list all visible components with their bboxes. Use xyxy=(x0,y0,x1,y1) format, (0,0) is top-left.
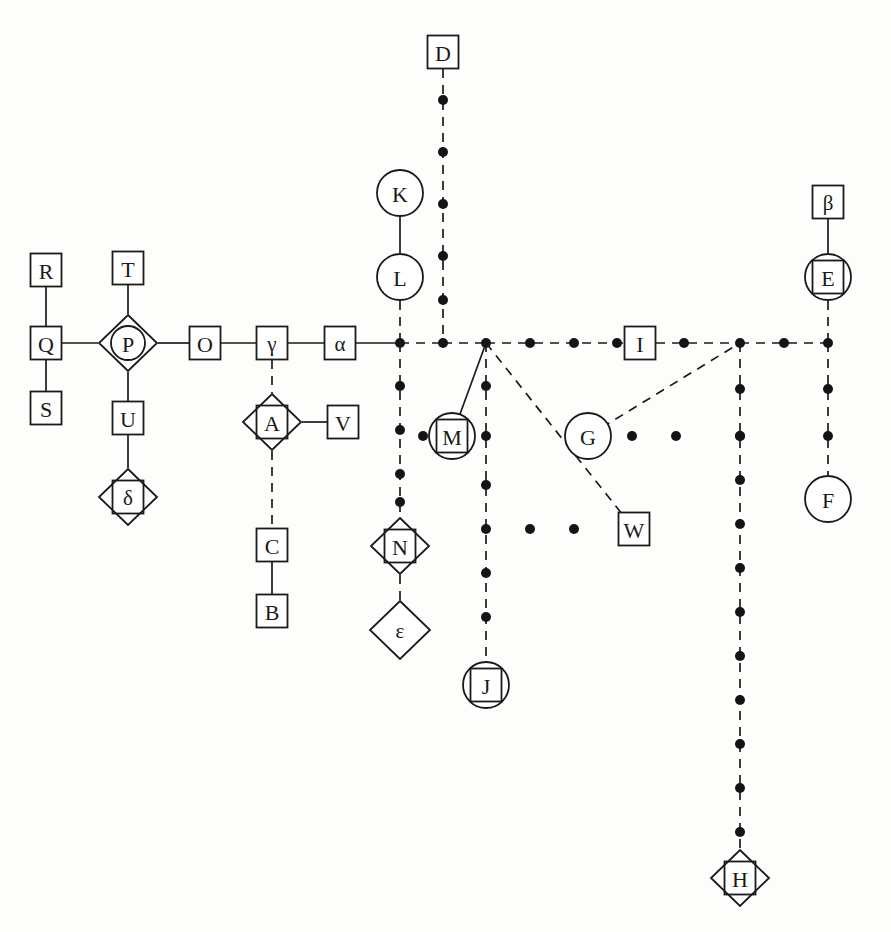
node-label-A: A xyxy=(264,411,280,436)
node-G[interactable]: G xyxy=(565,413,611,459)
node-label-L: L xyxy=(393,266,406,291)
junction-dot xyxy=(481,568,491,578)
junction-dot xyxy=(735,783,745,793)
node-P[interactable]: P xyxy=(99,315,157,371)
node-C[interactable]: C xyxy=(257,529,288,562)
node-F[interactable]: F xyxy=(805,476,851,522)
node-H[interactable]: H xyxy=(711,850,769,906)
node-label-C: C xyxy=(265,534,280,559)
junction-dot xyxy=(823,338,833,348)
junction-dot xyxy=(735,695,745,705)
junction-dot xyxy=(679,338,689,348)
node-label-N: N xyxy=(392,535,408,560)
junction-dot xyxy=(735,431,745,441)
node-label-V: V xyxy=(335,411,351,436)
node-D[interactable]: D xyxy=(428,36,459,69)
junction-dot xyxy=(395,381,405,391)
junction-dots-layer xyxy=(395,95,833,837)
junction-dot xyxy=(779,338,789,348)
junction-dot xyxy=(735,519,745,529)
junction-dot xyxy=(438,147,448,157)
junction-dot xyxy=(735,607,745,617)
node-label-I: I xyxy=(636,332,643,357)
junction-dot xyxy=(481,612,491,622)
node-label-Q: Q xyxy=(38,332,54,357)
node-U[interactable]: U xyxy=(113,402,144,435)
node-label-M: M xyxy=(442,425,462,450)
junction-dot xyxy=(438,338,448,348)
node-label-gamma: γ xyxy=(266,332,276,356)
node-label-beta: β xyxy=(823,191,834,215)
node-label-G: G xyxy=(580,425,596,450)
junction-dot xyxy=(569,524,579,534)
junction-dot xyxy=(735,651,745,661)
node-label-epsilon: ε xyxy=(396,619,405,643)
node-gamma[interactable]: γ xyxy=(257,327,288,360)
junction-dot xyxy=(395,338,405,348)
diagram-canvas: DKβRTLEQPOγαISUAVMGδFCNWBεJH xyxy=(0,0,891,932)
junction-dot xyxy=(438,251,448,261)
node-L[interactable]: L xyxy=(377,254,423,300)
node-I[interactable]: I xyxy=(625,327,656,360)
node-A[interactable]: A xyxy=(243,394,301,450)
junction-dot xyxy=(735,338,745,348)
junction-dot xyxy=(395,425,405,435)
node-W[interactable]: W xyxy=(619,513,650,546)
junction-dot xyxy=(481,480,491,490)
node-label-alpha: α xyxy=(334,332,345,356)
node-N[interactable]: N xyxy=(371,518,429,574)
node-label-R: R xyxy=(39,259,54,284)
junction-dot xyxy=(525,524,535,534)
junction-dot xyxy=(438,95,448,105)
junction-dot xyxy=(823,384,833,394)
junction-dot xyxy=(612,338,622,348)
node-label-delta: δ xyxy=(123,486,133,510)
junction-dot xyxy=(395,469,405,479)
junction-dot xyxy=(735,475,745,485)
junction-dot xyxy=(438,199,448,209)
node-epsilon[interactable]: ε xyxy=(370,601,430,659)
node-beta[interactable]: β xyxy=(813,186,844,219)
node-K[interactable]: K xyxy=(377,170,423,216)
node-J[interactable]: J xyxy=(463,662,509,708)
node-label-B: B xyxy=(265,600,280,625)
node-label-T: T xyxy=(121,257,135,282)
nodes-layer: DKβRTLEQPOγαISUAVMGδFCNWBεJH xyxy=(31,36,852,907)
junction-dot xyxy=(395,497,405,507)
junction-dot xyxy=(438,295,448,305)
junction-dot xyxy=(627,431,637,441)
junction-dot xyxy=(569,338,579,348)
junction-dot xyxy=(735,563,745,573)
node-label-U: U xyxy=(120,407,136,432)
node-label-D: D xyxy=(435,41,451,66)
node-Q[interactable]: Q xyxy=(31,327,62,360)
node-label-F: F xyxy=(822,488,834,513)
junction-dot xyxy=(418,431,428,441)
node-B[interactable]: B xyxy=(257,595,288,628)
node-alpha[interactable]: α xyxy=(325,327,356,360)
node-S[interactable]: S xyxy=(31,392,62,425)
node-V[interactable]: V xyxy=(328,406,359,439)
node-label-S: S xyxy=(40,397,52,422)
node-label-E: E xyxy=(821,266,834,291)
junction-dot xyxy=(525,338,535,348)
junction-dot xyxy=(481,338,491,348)
node-T[interactable]: T xyxy=(113,252,144,285)
junction-dot xyxy=(735,384,745,394)
node-label-J: J xyxy=(482,674,491,699)
node-R[interactable]: R xyxy=(31,254,62,287)
node-M[interactable]: M xyxy=(429,413,475,459)
node-E[interactable]: E xyxy=(805,254,851,300)
junction-dot xyxy=(671,431,681,441)
node-O[interactable]: O xyxy=(190,327,221,360)
node-label-W: W xyxy=(624,518,645,543)
junction-dot xyxy=(735,827,745,837)
node-label-H: H xyxy=(732,867,748,892)
node-delta[interactable]: δ xyxy=(99,469,157,525)
junction-dot xyxy=(481,431,491,441)
junction-dot xyxy=(823,431,833,441)
node-label-P: P xyxy=(122,332,134,357)
junction-dot xyxy=(481,381,491,391)
edges-layer xyxy=(46,69,828,849)
junction-dot xyxy=(481,524,491,534)
